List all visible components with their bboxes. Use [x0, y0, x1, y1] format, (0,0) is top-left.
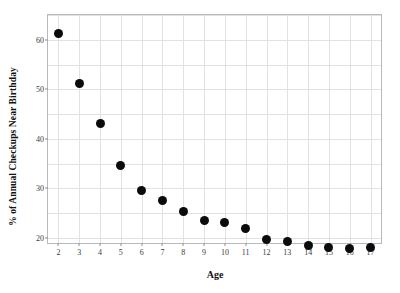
data-point — [200, 216, 209, 225]
y-tick-label: 60 — [36, 35, 44, 44]
gridline-horizontal — [48, 188, 381, 189]
x-tick-label: 9 — [202, 248, 206, 257]
data-point — [179, 207, 188, 216]
x-tick-mark — [100, 243, 101, 246]
gridline-vertical — [204, 15, 205, 243]
gridline-vertical — [79, 15, 80, 243]
gridline-horizontal — [48, 114, 381, 115]
x-tick-label: 10 — [221, 248, 229, 257]
gridline-horizontal — [48, 15, 381, 16]
gridline-horizontal — [48, 65, 381, 66]
gridline-vertical — [162, 15, 163, 243]
gridline-vertical — [246, 15, 247, 243]
data-point — [158, 196, 167, 205]
x-tick-mark — [58, 243, 59, 246]
x-tick-label: 3 — [77, 248, 81, 257]
gridline-horizontal — [48, 40, 381, 41]
x-tick-mark — [183, 243, 184, 246]
gridline-horizontal — [48, 164, 381, 165]
gridline-horizontal — [48, 238, 381, 239]
x-tick-label: 8 — [181, 248, 185, 257]
x-tick-label: 7 — [160, 248, 164, 257]
y-tick-label: 20 — [36, 234, 44, 243]
x-tick-mark — [245, 243, 246, 246]
gridline-vertical — [350, 15, 351, 243]
data-point — [75, 79, 84, 88]
y-axis-title: % of Annual Checkups Near Birthday — [0, 0, 26, 293]
gridline-vertical — [287, 15, 288, 243]
data-point — [262, 235, 271, 244]
y-tick-label: 30 — [36, 184, 44, 193]
gridline-horizontal — [48, 139, 381, 140]
gridline-vertical — [267, 15, 268, 243]
y-tick-mark — [45, 238, 48, 239]
data-point — [241, 224, 250, 233]
x-tick-label: 5 — [119, 248, 123, 257]
data-point — [366, 243, 375, 252]
y-tick-mark — [45, 89, 48, 90]
y-tick-label: 50 — [36, 85, 44, 94]
x-tick-label: 12 — [263, 248, 271, 257]
x-tick-mark — [141, 243, 142, 246]
chart-figure: % of Annual Checkups Near Birthday 20304… — [0, 0, 400, 293]
gridline-horizontal — [48, 213, 381, 214]
x-tick-mark — [120, 243, 121, 246]
x-tick-label: 11 — [242, 248, 250, 257]
y-tick-mark — [45, 39, 48, 40]
x-tick-label: 13 — [283, 248, 291, 257]
gridline-vertical — [225, 15, 226, 243]
gridline-vertical — [308, 15, 309, 243]
y-tick-mark — [45, 138, 48, 139]
data-point — [137, 186, 146, 195]
x-tick-label: 6 — [140, 248, 144, 257]
data-point — [283, 237, 292, 246]
gridline-vertical — [121, 15, 122, 243]
x-tick-mark — [162, 243, 163, 246]
gridline-vertical — [329, 15, 330, 243]
data-point — [54, 29, 63, 38]
data-point — [220, 218, 229, 227]
x-tick-mark — [79, 243, 80, 246]
gridline-vertical — [100, 15, 101, 243]
gridline-vertical — [142, 15, 143, 243]
data-point — [116, 161, 125, 170]
data-point — [96, 119, 105, 128]
gridline-horizontal — [48, 89, 381, 90]
gridline-vertical — [371, 15, 372, 243]
x-tick-mark — [224, 243, 225, 246]
y-tick-mark — [45, 188, 48, 189]
x-tick-label: 2 — [56, 248, 60, 257]
plot-area: 2030405060 234567891011121314151617 — [47, 14, 382, 244]
x-tick-mark — [204, 243, 205, 246]
x-axis-title: Age — [47, 269, 383, 280]
x-tick-label: 4 — [98, 248, 102, 257]
gridline-vertical — [58, 15, 59, 243]
y-tick-label: 40 — [36, 134, 44, 143]
